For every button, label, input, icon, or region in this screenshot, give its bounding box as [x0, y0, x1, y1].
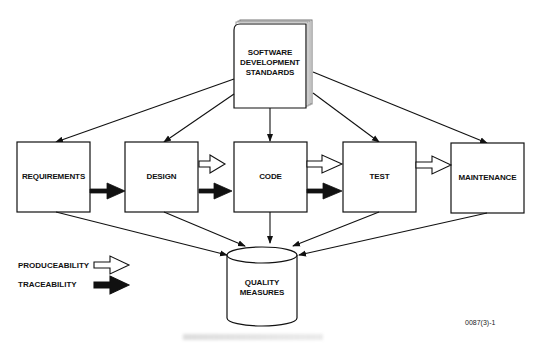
figure-id: 0087(3)-1	[465, 319, 495, 326]
figure-caption-illegible	[183, 334, 323, 340]
quality-label-line: QUALITY	[227, 278, 297, 288]
legend-produceability-icon	[94, 256, 129, 274]
produceability-arrow-test-maintenance	[416, 156, 451, 174]
quality-label-line: MEASURES	[227, 288, 297, 298]
produceability-arrow-design-code	[199, 155, 225, 173]
legend-traceability-label: TRACEABILITY	[18, 280, 77, 289]
traceability-arrow-requirements-design	[90, 183, 125, 199]
edge-standards-design	[164, 94, 234, 142]
phase-label-test: TEST	[343, 142, 416, 212]
traceability-arrow-design-code	[199, 183, 232, 199]
edge-standards-test	[313, 93, 379, 142]
standards-label-line: SOFTWARE	[234, 48, 306, 58]
edge-requirements-quality	[56, 212, 227, 255]
legend-traceability-icon	[94, 276, 129, 294]
phase-label-design: DESIGN	[125, 142, 198, 212]
edge-standards-maintenance	[313, 72, 487, 143]
standards-label-line: DEVELOPMENT	[234, 58, 306, 68]
standards-label-line: STANDARDS	[234, 68, 306, 78]
legend-arrows	[94, 256, 129, 294]
quality-label: QUALITY MEASURES	[227, 278, 297, 298]
phase-label-code: CODE	[234, 142, 307, 212]
traceability-arrow-code-test	[307, 183, 342, 199]
edge-standards-requirements	[56, 79, 234, 142]
edge-design-quality	[164, 212, 245, 246]
produceability-arrow-code-test	[307, 155, 342, 173]
legend-produceability-label: PRODUCEABILITY	[18, 261, 89, 270]
cylinder-top	[227, 247, 297, 263]
edge-test-quality	[293, 212, 379, 246]
phase-label-maintenance: MAINTENANCE	[451, 143, 524, 213]
edge-maintenance-quality	[299, 213, 487, 255]
phase-label-requirements: REQUIREMENTS	[17, 142, 90, 212]
standards-label: SOFTWARE DEVELOPMENT STANDARDS	[234, 48, 306, 78]
